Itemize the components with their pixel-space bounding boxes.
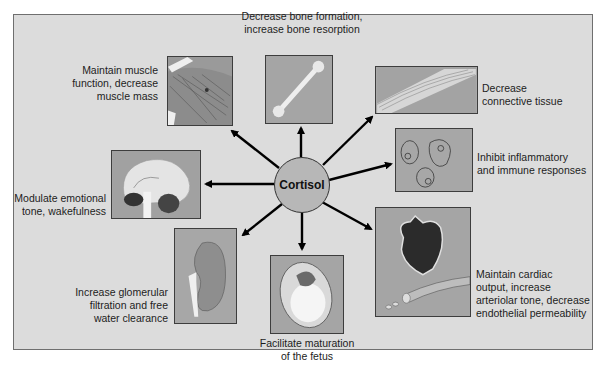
label-connective: Decrease connective tissue: [482, 82, 592, 108]
label-kidney: Increase glomerular filtration and free …: [72, 286, 168, 325]
label-inflammatory: Inhibit inflammatory and immune response…: [477, 151, 595, 177]
label-bone: Decrease bone formation, increase bone r…: [228, 10, 376, 36]
brain-illustration: [111, 150, 201, 219]
hub-label: Cortisol: [279, 178, 324, 192]
label-muscle: Maintain muscle function, decrease muscl…: [64, 64, 158, 103]
arrow-kidney: [243, 204, 282, 235]
heart-vessel-illustration: [375, 207, 471, 317]
arrow-inflammatory: [329, 164, 391, 180]
arrow-muscle: [232, 131, 279, 168]
kidney-illustration: [174, 228, 237, 324]
connective-tissue-illustration: [375, 66, 478, 114]
bone-illustration: [265, 55, 333, 124]
cortisol-hub: Cortisol: [274, 157, 330, 213]
label-cardiac: Maintain cardiac output, increase arteri…: [476, 268, 602, 320]
fetus-illustration: [270, 255, 344, 334]
cells-illustration: [395, 128, 473, 192]
arrow-connective: [323, 117, 372, 165]
label-fetus: Facilitate maturation of the fetus: [250, 337, 364, 363]
arrow-cardiac: [322, 202, 371, 229]
muscle-illustration: [167, 56, 233, 126]
label-brain: Modulate emotional tone, wakefulness: [14, 192, 106, 218]
